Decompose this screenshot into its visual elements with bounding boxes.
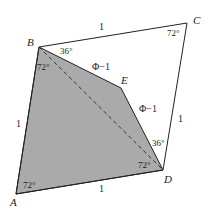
angle-label-c: 72° [167, 28, 180, 38]
rhombus-golden-diagram: B C E D A 1 1 1 1 Φ−1 Φ−1 72° 36° 72° 36… [0, 0, 213, 221]
angle-label-b-upper: 36° [60, 46, 73, 56]
angle-label-b-lower: 72° [37, 62, 50, 72]
angle-label-d-upper: 36° [152, 138, 165, 148]
vertex-label-a: A [9, 196, 17, 208]
angle-label-a: 72° [23, 180, 36, 190]
edge-bc [39, 23, 187, 47]
edge-label-ab: 1 [16, 118, 21, 129]
edge-label-ad: 1 [99, 183, 104, 194]
vertex-label-c: C [193, 14, 201, 26]
vertex-label-d: D [163, 173, 172, 185]
edge-cd [163, 23, 187, 170]
edge-label-be: Φ−1 [92, 61, 110, 72]
edge-label-bc: 1 [99, 21, 104, 32]
edge-label-cd: 1 [178, 113, 183, 124]
vertex-label-b: B [27, 36, 34, 48]
vertex-label-e: E [120, 74, 128, 86]
angle-label-d-lower: 72° [138, 160, 151, 170]
edge-label-ed: Φ−1 [139, 103, 157, 114]
